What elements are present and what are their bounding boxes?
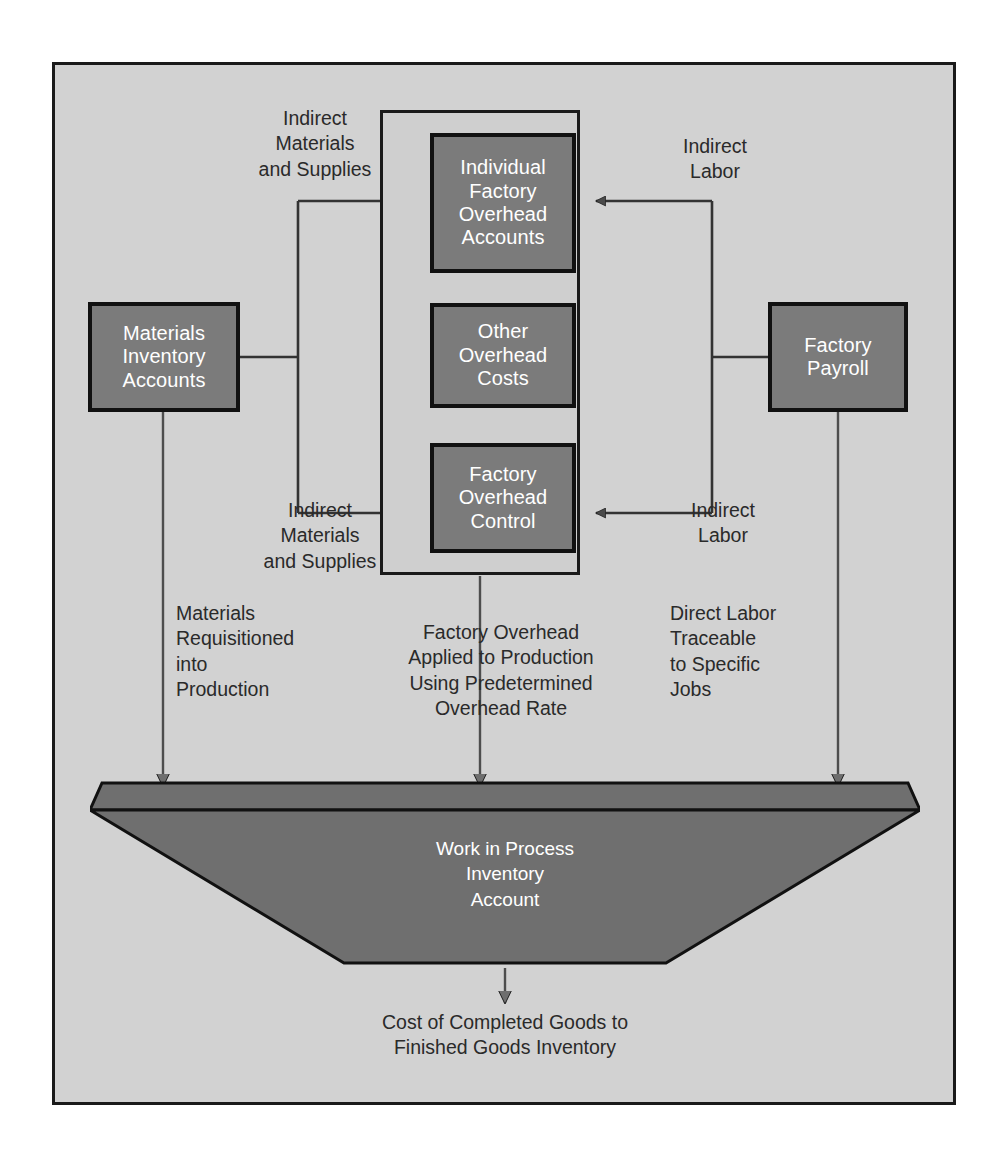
node-factory-overhead-control[interactable]: FactoryOverheadControl	[430, 443, 576, 553]
caption-indirect-materials-top: IndirectMaterialsand Supplies	[210, 106, 420, 182]
node-label: OtherOverheadCosts	[455, 320, 552, 390]
node-label: FactoryOverheadControl	[455, 463, 552, 533]
caption-direct-labor: Direct LaborTraceableto SpecificJobs	[670, 601, 890, 702]
node-materials-inventory-accounts[interactable]: MaterialsInventoryAccounts	[88, 302, 240, 412]
node-label: FactoryPayroll	[800, 334, 875, 381]
node-label: IndividualFactoryOverheadAccounts	[455, 156, 552, 250]
caption-indirect-materials-bottom: IndirectMaterialsand Supplies	[212, 498, 428, 574]
caption-indirect-labor-bottom: IndirectLabor	[630, 498, 816, 549]
caption-cost-of-completed-goods: Cost of Completed Goods toFinished Goods…	[275, 1010, 735, 1061]
caption-factory-overhead-applied: Factory OverheadApplied to ProductionUsi…	[336, 620, 666, 721]
node-label: MaterialsInventoryAccounts	[118, 322, 209, 392]
node-factory-payroll[interactable]: FactoryPayroll	[768, 302, 908, 412]
diagram-canvas: IndividualFactoryOverheadAccounts OtherO…	[0, 0, 1001, 1165]
node-individual-factory-overhead-accounts[interactable]: IndividualFactoryOverheadAccounts	[430, 133, 576, 273]
caption-indirect-labor-top: IndirectLabor	[620, 134, 810, 185]
node-other-overhead-costs[interactable]: OtherOverheadCosts	[430, 303, 576, 408]
work-in-process-label: Work in ProcessInventoryAccount	[90, 836, 920, 912]
